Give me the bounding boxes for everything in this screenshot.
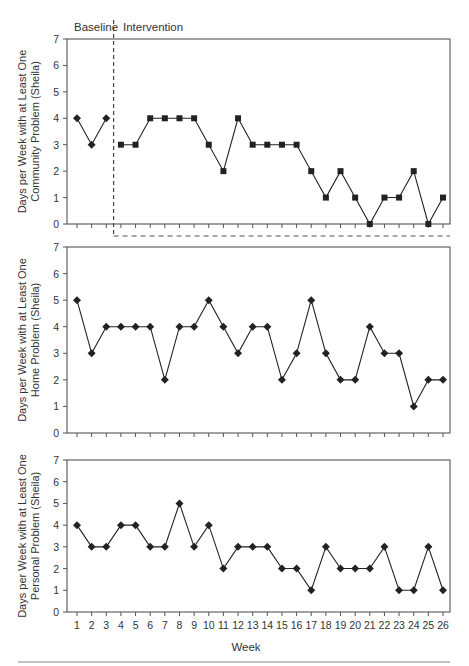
baseline-phase-label: Baseline [74,21,118,33]
data-point [323,195,329,201]
x-tick-label: 16 [291,619,303,631]
y-axis-title-line: Days per Week with at Least One [16,454,28,618]
data-point [146,323,154,331]
y-tick-label: 0 [53,606,59,618]
data-point [411,168,417,174]
y-tick-label: 0 [53,218,59,230]
data-point [367,221,373,227]
y-tick-label: 2 [53,165,59,177]
x-tick-label: 4 [118,619,124,631]
y-tick-label: 6 [53,59,59,71]
data-point [161,376,169,384]
data-point [249,543,257,551]
data-point [338,168,344,174]
data-point [102,543,110,551]
x-tick-label: 21 [364,619,376,631]
x-tick-label: 8 [177,619,183,631]
y-tick-label: 7 [53,454,59,466]
data-point [366,565,374,573]
data-point [410,402,418,410]
x-tick-label: 23 [393,619,405,631]
data-point [206,142,212,148]
data-point [425,221,431,227]
y-tick-label: 6 [53,476,59,488]
data-point [220,168,226,174]
x-tick-label: 14 [261,619,273,631]
y-tick-label: 6 [53,268,59,280]
data-point [249,323,257,331]
data-point [278,376,286,384]
data-series [73,114,447,594]
x-axis-title: Week [231,641,260,653]
panel-home-frame [67,247,450,433]
data-point [234,543,242,551]
data-point [263,543,271,551]
y-tick-label: 0 [53,427,59,439]
data-point [117,521,125,529]
x-tick-label: 7 [162,619,168,631]
data-point [307,586,315,594]
data-point [191,115,197,121]
data-point [176,115,182,121]
intervention-phase-label: Intervention [123,21,183,33]
x-tick-label: 6 [147,619,153,631]
y-tick-label: 4 [53,321,59,333]
data-point [424,543,432,551]
y-tick-label: 3 [53,139,59,151]
data-point [133,142,139,148]
data-point [278,565,286,573]
data-point [380,349,388,357]
data-point [351,565,359,573]
data-point [263,323,271,331]
y-tick-label: 7 [53,33,59,45]
panel-personal-frame [67,460,450,612]
data-point [279,142,285,148]
data-point [352,195,358,201]
x-tick-label: 1 [74,619,80,631]
x-tick-label: 13 [247,619,259,631]
data-point [118,142,124,148]
data-point [366,323,374,331]
single-subject-design-chart: 01234567Days per Week with at Least OneC… [0,0,469,666]
data-point [175,323,183,331]
data-point [410,586,418,594]
data-point [440,195,446,201]
y-axis-title-line: Days per Week with at Least One [16,258,28,422]
data-point [293,565,301,573]
data-point [102,114,110,122]
x-tick-label: 24 [408,619,420,631]
x-tick-label: 3 [103,619,109,631]
data-point [380,543,388,551]
data-point [88,349,96,357]
y-tick-label: 5 [53,86,59,98]
data-point [308,168,314,174]
data-point [234,349,242,357]
x-tick-label: 9 [191,619,197,631]
y-tick-label: 4 [53,112,59,124]
data-point [264,142,270,148]
data-point [439,376,447,384]
y-tick-label: 1 [53,192,59,204]
series-line-intervention [121,118,443,224]
data-point [219,565,227,573]
y-tick-label: 1 [53,584,59,596]
x-tick-label: 15 [276,619,288,631]
x-tick-label: 11 [218,619,229,631]
data-point [235,115,241,121]
data-point [132,323,140,331]
data-point [146,543,154,551]
data-point [294,142,300,148]
data-point [293,349,301,357]
x-tick-label: 2 [89,619,95,631]
data-point [73,296,81,304]
data-point [161,543,169,551]
data-point [381,195,387,201]
data-point [190,323,198,331]
x-tick-label: 10 [203,619,215,631]
data-point [88,543,96,551]
x-tick-label: 5 [133,619,139,631]
data-point [395,349,403,357]
data-point [205,296,213,304]
x-tick-label: 20 [349,619,361,631]
data-point [117,323,125,331]
